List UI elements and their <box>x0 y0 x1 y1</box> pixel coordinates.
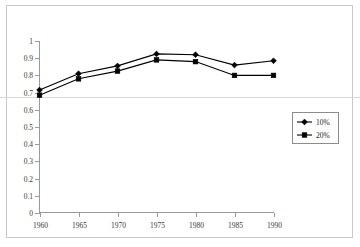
legend-label-10-percent: 10% <box>316 118 330 127</box>
data-point-square-marker <box>115 69 120 74</box>
y-tick-label: 0.4 <box>24 140 34 149</box>
data-point-diamond-marker <box>76 71 82 77</box>
series-20-percent <box>37 58 276 98</box>
x-axis-tick-labels: 1960196519701975198019851990 <box>33 221 282 230</box>
data-point-square-marker <box>193 59 198 64</box>
data-point-square-marker <box>76 77 81 82</box>
x-tick-label: 1980 <box>189 221 204 230</box>
chart-figure: 00.10.20.30.40.50.60.70.80.91 1960196519… <box>0 0 360 247</box>
y-tick-label: 0.5 <box>24 123 34 132</box>
data-point-square-marker <box>302 133 307 138</box>
y-tick-label: 0.2 <box>24 175 34 184</box>
y-tick-label: 0 <box>29 209 33 218</box>
legend-label-20-percent: 20% <box>316 131 330 140</box>
x-tick-label: 1975 <box>150 221 165 230</box>
y-tick-label: 0.1 <box>24 192 34 201</box>
x-tick-label: 1985 <box>228 221 243 230</box>
data-point-square-marker <box>232 73 237 78</box>
data-point-square-marker <box>154 58 159 63</box>
y-tick-label: 0.6 <box>24 106 34 115</box>
x-axis-ticks <box>41 213 275 217</box>
series-10-percent <box>37 51 277 93</box>
data-point-square-marker <box>271 73 276 78</box>
y-axis-ticks <box>35 42 40 214</box>
y-tick-label: 0.9 <box>24 54 34 63</box>
y-tick-label: 0.7 <box>24 89 34 98</box>
data-point-diamond-marker <box>115 63 121 69</box>
x-tick-label: 1960 <box>33 221 48 230</box>
data-point-diamond-marker <box>193 52 199 58</box>
data-point-diamond-marker <box>37 87 43 93</box>
data-point-diamond-marker <box>232 62 238 68</box>
chart-legend: 10%20% <box>293 113 339 144</box>
x-tick-label: 1990 <box>267 221 282 230</box>
x-tick-label: 1965 <box>72 221 87 230</box>
line-chart-canvas: 00.10.20.30.40.50.60.70.80.91 1960196519… <box>0 0 360 247</box>
y-axis-tick-labels: 00.10.20.30.40.50.60.70.80.91 <box>24 37 34 218</box>
x-tick-label: 1970 <box>111 221 126 230</box>
y-tick-label: 0.3 <box>24 157 34 166</box>
data-point-diamond-marker <box>271 58 277 64</box>
y-tick-label: 1 <box>29 37 33 46</box>
y-tick-label: 0.8 <box>24 71 34 80</box>
data-point-diamond-marker <box>154 51 160 57</box>
data-point-square-marker <box>37 93 42 98</box>
